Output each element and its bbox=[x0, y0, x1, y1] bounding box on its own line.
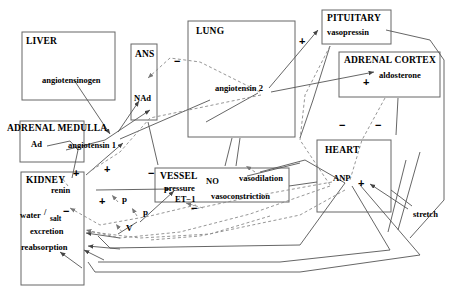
node-nad: NAd bbox=[134, 94, 151, 103]
edge-kidney-bottom-arrow bbox=[60, 252, 82, 268]
edge-lung-bottom-to-vessel bbox=[225, 138, 232, 166]
sign-plus-kidney: + bbox=[73, 168, 79, 179]
box-label-ans: ANS bbox=[135, 50, 155, 60]
sign-minus-heart-left: − bbox=[339, 120, 345, 131]
node-vasopressin: vasopressin bbox=[327, 28, 369, 37]
sign-minus-lung-top: − bbox=[174, 56, 180, 67]
dashed-p-mark-1 bbox=[112, 195, 118, 202]
box-label-lung: LUNG bbox=[196, 27, 224, 37]
dashed-aldosterone-from-below bbox=[350, 98, 385, 180]
diagram-canvas: LIVER ANS LUNG PITUITARY ADRENAL CORTEX … bbox=[0, 0, 453, 297]
node-renin: renin bbox=[51, 186, 70, 195]
edge-vessel-pressure-in bbox=[96, 189, 170, 190]
node-angiotensin-2: angiotensin 2 bbox=[215, 84, 263, 93]
dashed-renin-inhibit bbox=[70, 205, 196, 225]
edge-stretch-to-anp bbox=[370, 184, 408, 209]
sign-plus-aldosterone: + bbox=[363, 77, 369, 88]
sign-minus-kidney: − bbox=[63, 206, 69, 217]
edge-ans-down-to-vessel bbox=[148, 122, 158, 165]
box-label-liver: LIVER bbox=[26, 37, 57, 47]
sign-minus-vessel: − bbox=[191, 203, 197, 214]
node-vasoconstriction: vasoconstriction bbox=[211, 192, 270, 201]
var-p-lower: p bbox=[143, 208, 148, 217]
edge-kidney-bottom-arrow-2 bbox=[84, 250, 104, 260]
node-pressure: pressure bbox=[164, 184, 195, 193]
dashed-v-mark bbox=[116, 224, 122, 232]
solid-connections bbox=[47, 30, 444, 272]
node-excretion: excretion bbox=[30, 227, 63, 236]
var-v: V bbox=[126, 224, 133, 233]
dashed-p-mark-2 bbox=[132, 208, 137, 216]
edge-vessel-to-anp-line bbox=[289, 182, 317, 186]
edge-adrenal-cortex-down bbox=[396, 98, 398, 135]
sign-plus-mid: + bbox=[104, 164, 110, 175]
node-stretch: stretch bbox=[413, 210, 438, 219]
box-label-vessel: VESSEL bbox=[160, 172, 198, 182]
node-vasodilation: vasodilation bbox=[239, 174, 283, 183]
edge-angiotensin2-to-pituitary bbox=[269, 30, 318, 88]
sign-minus-heart-right: − bbox=[375, 120, 381, 131]
box-label-adrenal-medulla: ADRENAL MEDULLA bbox=[7, 124, 107, 134]
edge-angiotensin2-to-adrenal-cortex bbox=[271, 72, 374, 92]
edge-nad-arrow bbox=[118, 101, 139, 132]
node-aldosterone: aldosterone bbox=[379, 71, 421, 80]
sign-minus-mid: − bbox=[148, 168, 154, 179]
node-water: water bbox=[20, 211, 41, 220]
edge-lung-bottom-to-vasoc bbox=[236, 138, 240, 166]
node-salt: salt bbox=[50, 215, 61, 223]
sign-plus-renin: + bbox=[99, 196, 105, 207]
node-angiotensinogen: angiotensinogen bbox=[42, 76, 101, 85]
node-slash: / bbox=[44, 208, 46, 217]
box-label-adrenal-cortex: ADRENAL CORTEX bbox=[344, 56, 436, 66]
dashed-vasodilation-down bbox=[246, 166, 255, 172]
box-label-pituitary: PITUITARY bbox=[327, 14, 381, 24]
node-angiotensin-1: angiotensin 1 bbox=[68, 141, 116, 150]
sign-plus-anp: + bbox=[358, 178, 364, 189]
node-reabsorption: reabsorption bbox=[21, 243, 68, 252]
box-lung bbox=[188, 21, 295, 137]
edge-pituitary-down bbox=[300, 46, 330, 138]
sign-plus-angiotensin2: + bbox=[299, 36, 305, 47]
var-p-upper: p bbox=[122, 195, 127, 204]
node-ad: Ad bbox=[31, 140, 42, 149]
dashed-vasopressin-from-below bbox=[300, 46, 330, 185]
dashed-angiotensin2-to-vessel bbox=[92, 95, 261, 170]
box-label-heart: HEART bbox=[325, 146, 359, 156]
node-no: NO bbox=[206, 177, 219, 186]
node-anp: ANP bbox=[333, 174, 350, 183]
